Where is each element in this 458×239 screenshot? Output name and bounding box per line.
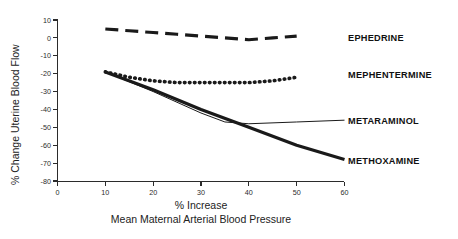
y-axis-label: % Change Uterine Blood Flow [9, 44, 21, 185]
x-tick-label: 50 [293, 188, 301, 197]
y-tick-label: -30 [41, 87, 51, 96]
x-tick-label: 40 [245, 188, 253, 197]
y-tick-label: -20 [41, 69, 51, 78]
y-tick-label: -10 [41, 51, 51, 60]
series-line-methoxamine [105, 72, 344, 160]
x-tick-label: 20 [149, 188, 157, 197]
x-axis-label-line1: % Increase [175, 199, 228, 211]
legend-label-ephedrine: EPHEDRINE [348, 33, 404, 43]
x-axis-label-line2: Mean Maternal Arterial Blood Pressure [111, 213, 291, 225]
x-axis-ticks: 0 10 20 30 40 50 60 [56, 182, 349, 198]
y-tick-label: -60 [41, 141, 51, 150]
x-tick-label: 10 [101, 188, 109, 197]
y-tick-label: -40 [41, 105, 51, 114]
legend-label-methoxamine: METHOXAMINE [348, 156, 420, 166]
y-tick-label: -50 [41, 123, 51, 132]
x-tick-label: 60 [341, 188, 349, 197]
y-axis-ticks: 10 0 -10 -20 -30 -40 -50 -60 -70 -80 [41, 16, 58, 186]
legend-label-mephentermine: MEPHENTERMINE [348, 70, 432, 80]
series-line-ephedrine [105, 29, 296, 40]
y-tick-label: 10 [43, 16, 51, 25]
x-tick-label: 0 [56, 188, 60, 197]
legend-label-metaraminol: METARAMINOL [348, 116, 419, 126]
y-tick-label: 0 [47, 34, 51, 43]
y-tick-label: -80 [41, 177, 51, 186]
chart-figure: % Change Uterine Blood Flow 10 0 -10 -20… [0, 0, 458, 239]
x-tick-label: 30 [197, 188, 205, 197]
y-tick-label: -70 [41, 159, 51, 168]
chart-plot-area: % Change Uterine Blood Flow 10 0 -10 -20… [0, 0, 458, 239]
